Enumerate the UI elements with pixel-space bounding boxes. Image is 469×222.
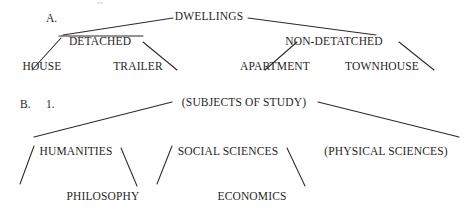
tree-edge-humanities-to-philosophy xyxy=(20,146,34,184)
tree-edge-social-sciences-right-branch xyxy=(287,148,305,186)
section-b-sub-marker: 1. xyxy=(46,99,55,111)
tree-edge-subjects-to-physical-sciences xyxy=(318,102,459,137)
tree-diagram-page: A. DWELLINGS DETACHED NON-DETATCHED HOUS… xyxy=(0,0,469,222)
tree-edge-dwellings-to-detached xyxy=(63,18,173,35)
tree-edges-layer xyxy=(0,0,469,222)
node-townhouse: TOWNHOUSE xyxy=(345,61,419,73)
node-dwellings: DWELLINGS xyxy=(175,11,243,23)
tree-edge-humanities-right-branch xyxy=(121,148,137,186)
tree-edge-social-sciences-left-branch xyxy=(157,146,172,184)
node-philosophy: PHILOSOPHY xyxy=(66,191,139,203)
node-economics: ECONOMICS xyxy=(217,191,286,203)
tree-edge-dwellings-to-non-detatched xyxy=(248,18,376,35)
node-detached: DETACHED xyxy=(69,36,131,48)
node-apartment: APARTMENT xyxy=(240,61,310,73)
node-humanities: HUMANITIES xyxy=(39,146,112,158)
scan-speck xyxy=(97,2,103,4)
node-subjects-of-study: (SUBJECTS OF STUDY) xyxy=(182,97,306,109)
section-a-marker: A. xyxy=(46,13,57,25)
section-b-marker: B. xyxy=(20,99,31,111)
node-trailer: TRAILER xyxy=(113,61,163,73)
node-social-sciences: SOCIAL SCIENCES xyxy=(178,146,279,158)
node-house: HOUSE xyxy=(22,61,61,73)
node-physical-sciences: (PHYSICAL SCIENCES) xyxy=(324,146,448,158)
node-non-detatched: NON-DETATCHED xyxy=(285,36,383,48)
